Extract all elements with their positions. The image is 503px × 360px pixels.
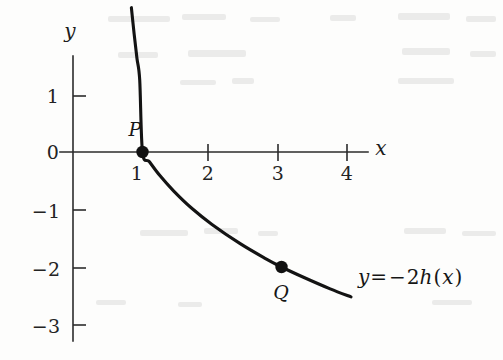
point-p-marker [136,146,148,158]
y-tick-label-minus-2: −2 [32,258,61,280]
point-p-label: P [129,118,142,140]
equation-lhs: y [358,265,369,289]
point-q-marker [275,261,287,273]
equation-operator: = [369,265,388,289]
y-tick-label-0: 0 [47,141,59,163]
y-axis-label: y [64,19,75,43]
figure-container: 1 0 −1 −2 −3 1 2 3 4 y x P Q y=−2h(x) [0,0,503,360]
equation-coefficient: 2 [407,265,420,289]
y-tick-label-minus-3: −3 [32,315,61,337]
x-tick-label-4: 4 [341,162,353,184]
equation-function: h [420,265,433,289]
y-tick-label-1: 1 [47,85,59,107]
equation-argument: x [442,265,453,289]
point-q-label: Q [273,281,289,303]
curve-equation-label: y=−2h(x) [358,265,463,289]
equation-close-paren: ) [454,265,464,289]
x-tick-label-2: 2 [202,162,214,184]
x-tick-label-3: 3 [272,162,284,184]
plot-area [0,0,503,360]
x-tick-label-1: 1 [131,162,143,184]
y-tick-label-minus-1: −1 [32,200,61,222]
x-axis-label: x [375,136,386,160]
equation-open-paren: ( [432,265,442,289]
equation-sign: − [388,265,407,289]
